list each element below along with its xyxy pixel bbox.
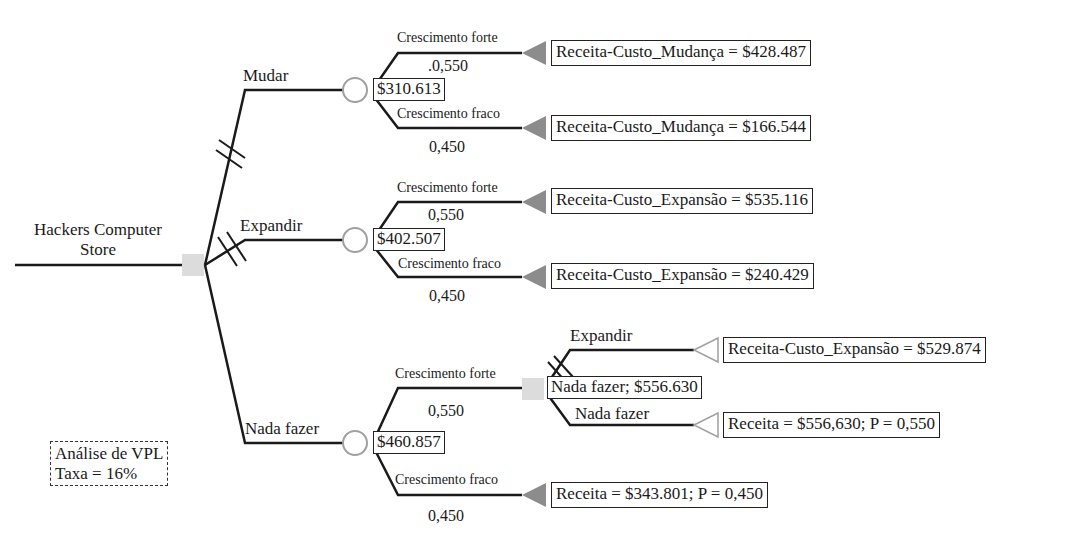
root-decision-node[interactable] <box>182 254 204 276</box>
outcome-label: Crescimento forte <box>397 31 498 45</box>
terminal-node[interactable] <box>522 116 546 140</box>
terminal-node-outline[interactable] <box>694 413 718 437</box>
outcome-prob: 0,450 <box>428 508 464 524</box>
decision-label-nada-fazer: Nada fazer <box>245 420 319 437</box>
outcome-prob: 0,550 <box>428 403 464 419</box>
branch-expandir-line <box>205 240 343 265</box>
expected-value-nada-fazer: $460.857 <box>373 431 445 454</box>
chance-node-mudar[interactable] <box>343 78 367 102</box>
sub-option-label-expandir: Expandir <box>570 327 632 344</box>
outcome-prob: 0,450 <box>429 139 465 155</box>
outcome-prob: .0,550 <box>428 58 468 74</box>
outcome-label: Crescimento fraco <box>398 257 501 271</box>
sub-decision-node[interactable] <box>522 378 544 400</box>
analysis-note: Análise de VPL Taxa = 16% <box>50 441 168 486</box>
outcome-label: Crescimento forte <box>397 181 498 195</box>
root-title-line1: Hackers Computer <box>18 220 178 240</box>
payoff-box: Receita = $343.801; P = 0,450 <box>551 482 768 508</box>
decision-label-mudar: Mudar <box>243 67 288 84</box>
payoff-box: Receita-Custo_Mudança = $428.487 <box>551 40 811 66</box>
payoff-box: Receita-Custo_Expansão = $535.116 <box>551 188 813 214</box>
outcome-prob: 0,450 <box>429 288 465 304</box>
terminal-node[interactable] <box>522 265 546 289</box>
outcome-prob: 0,550 <box>428 207 464 223</box>
payoff-box: Receita-Custo_Expansão = $529.874 <box>723 337 986 363</box>
terminal-node-outline[interactable] <box>694 338 718 362</box>
branch-nada-fazer-line <box>205 265 343 443</box>
outcome-label: Crescimento fraco <box>395 473 498 487</box>
chance-node-expandir[interactable] <box>343 228 367 252</box>
terminal-node[interactable] <box>522 41 546 65</box>
outcome-label: Crescimento fraco <box>397 107 500 121</box>
payoff-box: Receita-Custo_Expansão = $240.429 <box>551 263 814 289</box>
sub-option-label-nada-fazer: Nada fazer <box>575 405 649 422</box>
expected-value-mudar: $310.613 <box>373 78 445 101</box>
terminal-node[interactable] <box>522 190 546 214</box>
note-line1: Análise de VPL <box>55 444 163 464</box>
sub-decision-value: Nada fazer; $556.630 <box>547 376 702 399</box>
outcome-label: Crescimento forte <box>395 367 496 381</box>
root-title: Hackers Computer Store <box>18 220 178 259</box>
expected-value-expandir: $402.507 <box>373 228 445 251</box>
decision-label-expandir: Expandir <box>240 217 302 234</box>
root-title-line2: Store <box>18 240 178 260</box>
payoff-box: Receita-Custo_Mudança = $166.544 <box>551 115 811 141</box>
terminal-node[interactable] <box>522 483 546 507</box>
note-line2: Taxa = 16% <box>55 464 163 484</box>
payoff-box: Receita = $556,630; P = 0,550 <box>723 412 940 438</box>
chance-node-nada-fazer[interactable] <box>343 431 367 455</box>
